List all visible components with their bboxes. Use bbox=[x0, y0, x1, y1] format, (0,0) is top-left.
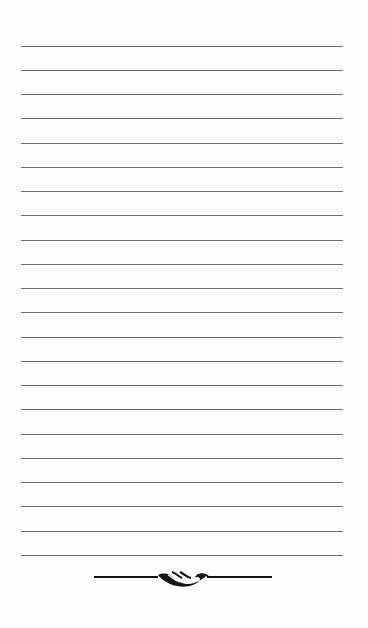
ruled-line bbox=[21, 94, 343, 95]
ruled-line bbox=[21, 215, 343, 216]
ruled-line bbox=[21, 167, 343, 168]
ornament-left-bar bbox=[94, 576, 158, 578]
ruled-line bbox=[21, 531, 343, 532]
ruled-line bbox=[21, 118, 343, 119]
lined-page bbox=[0, 0, 368, 628]
ruled-line bbox=[21, 555, 343, 556]
ruled-line bbox=[21, 337, 343, 338]
ruled-line bbox=[21, 143, 343, 144]
footer-ornament bbox=[94, 568, 272, 592]
ruled-line bbox=[21, 312, 343, 313]
ruled-line bbox=[21, 434, 343, 435]
ruled-line bbox=[21, 506, 343, 507]
ruled-line bbox=[21, 482, 343, 483]
ruled-line bbox=[21, 191, 343, 192]
ruled-line bbox=[21, 46, 343, 47]
ruled-line bbox=[21, 70, 343, 71]
ruled-line bbox=[21, 409, 343, 410]
ruled-line bbox=[21, 458, 343, 459]
ruled-line bbox=[21, 264, 343, 265]
ruled-line bbox=[21, 240, 343, 241]
scroll-flourish-divider-icon bbox=[156, 568, 210, 592]
ruled-line bbox=[21, 288, 343, 289]
ruled-line bbox=[21, 385, 343, 386]
ornament-right-bar bbox=[207, 576, 272, 578]
ruled-line bbox=[21, 361, 343, 362]
